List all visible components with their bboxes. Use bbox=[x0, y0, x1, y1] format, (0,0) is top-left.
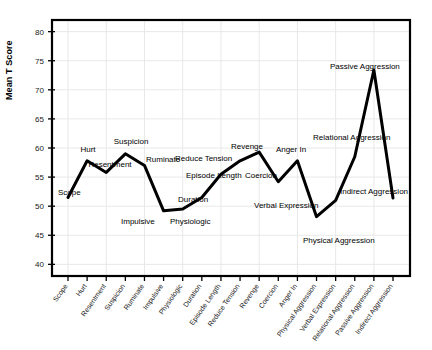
y-tick-label: 45 bbox=[35, 231, 44, 240]
y-tick-label: 40 bbox=[35, 260, 44, 269]
chart-figure: Mean T Score 404550556065707580 ScopeHur… bbox=[0, 0, 432, 350]
y-tick-label: 70 bbox=[35, 86, 44, 95]
x-tick-label: Indirect Aggression bbox=[354, 282, 395, 335]
point-label: Relational Aggression bbox=[313, 133, 390, 142]
point-label: Impulsive bbox=[121, 217, 155, 226]
x-tick-label: Scope bbox=[52, 282, 70, 303]
x-tick-label: Coercion bbox=[257, 282, 279, 309]
point-label: Reduce Tension bbox=[175, 154, 232, 163]
point-label: Indirect Aggression bbox=[340, 187, 408, 196]
point-label: Resentment bbox=[88, 160, 132, 169]
point-label: Anger In bbox=[276, 145, 306, 154]
y-tick-label: 80 bbox=[35, 28, 44, 37]
y-tick-label: 65 bbox=[35, 115, 44, 124]
x-tick-label: Hurt bbox=[75, 283, 88, 298]
y-axis-title: Mean T Score bbox=[4, 0, 14, 100]
line-chart-plot: 404550556065707580 ScopeHurtResentmentSu… bbox=[0, 0, 432, 350]
x-axis: ScopeHurtResentmentSuspicionRuminateImpu… bbox=[52, 276, 395, 343]
point-label: Physiologic bbox=[170, 217, 210, 226]
point-label: Passive Aggression bbox=[330, 62, 400, 71]
point-label: Hurt bbox=[80, 145, 96, 154]
y-tick-label: 50 bbox=[35, 202, 44, 211]
point-label: Coercion bbox=[245, 171, 277, 180]
point-label: Verbal Expression bbox=[254, 201, 318, 210]
point-label: Episode Length bbox=[186, 171, 242, 180]
y-tick-label: 60 bbox=[35, 144, 44, 153]
point-label: Revenge bbox=[231, 142, 264, 151]
point-label: Duration bbox=[178, 195, 208, 204]
point-label: Suspicion bbox=[114, 137, 149, 146]
y-tick-label: 75 bbox=[35, 57, 44, 66]
point-label: Physical Aggression bbox=[303, 236, 375, 245]
point-label: Scope bbox=[58, 188, 81, 197]
y-tick-label: 55 bbox=[35, 173, 44, 182]
